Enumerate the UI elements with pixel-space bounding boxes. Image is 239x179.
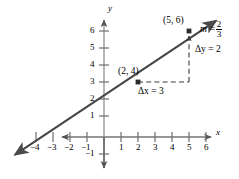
point-label-5-6: (5, 6): [163, 16, 184, 26]
point-2-4: [136, 80, 141, 85]
x-tick-label-1: 1: [119, 143, 124, 152]
slope-fraction: 23: [216, 20, 223, 40]
y-tick-label-5: 5: [90, 43, 95, 52]
y-tick-label-1: 1: [90, 111, 95, 120]
y-axis-label: y: [108, 4, 112, 13]
x-tick-label-neg3: −3: [47, 143, 57, 152]
x-tick-label-4: 4: [170, 143, 175, 152]
plotted-line: [15, 21, 216, 155]
x-tick-label-5: 5: [187, 143, 192, 152]
point-label-2-4: (2, 4): [118, 67, 139, 77]
x-tick-label-neg4: −4: [30, 143, 40, 152]
slope-denominator: 3: [216, 30, 223, 39]
slope-label: m =23: [200, 20, 222, 40]
x-axis-label: x: [216, 128, 220, 137]
x-tick-label-2: 2: [136, 143, 141, 152]
delta-y-label: Δy = 2: [195, 45, 221, 55]
slope-label-m: m =: [200, 25, 216, 35]
y-tick-label-3: 3: [90, 77, 95, 86]
x-tick-label-neg2: −2: [64, 143, 74, 152]
x-tick-label-6: 6: [204, 143, 209, 152]
delta-x-label: Δx = 3: [138, 87, 164, 97]
y-tick-label-6: 6: [90, 26, 95, 35]
y-tick-label-2: 2: [90, 94, 95, 103]
graph-figure: 6 5 4 3 2 1 −1 −4 −3 −2 −1 1 2 3 4 5 6 y…: [0, 0, 239, 179]
x-tick-label-neg1: −1: [81, 143, 91, 152]
y-tick-label-4: 4: [90, 60, 95, 69]
x-tick-label-3: 3: [153, 143, 158, 152]
point-5-6: [187, 29, 192, 34]
